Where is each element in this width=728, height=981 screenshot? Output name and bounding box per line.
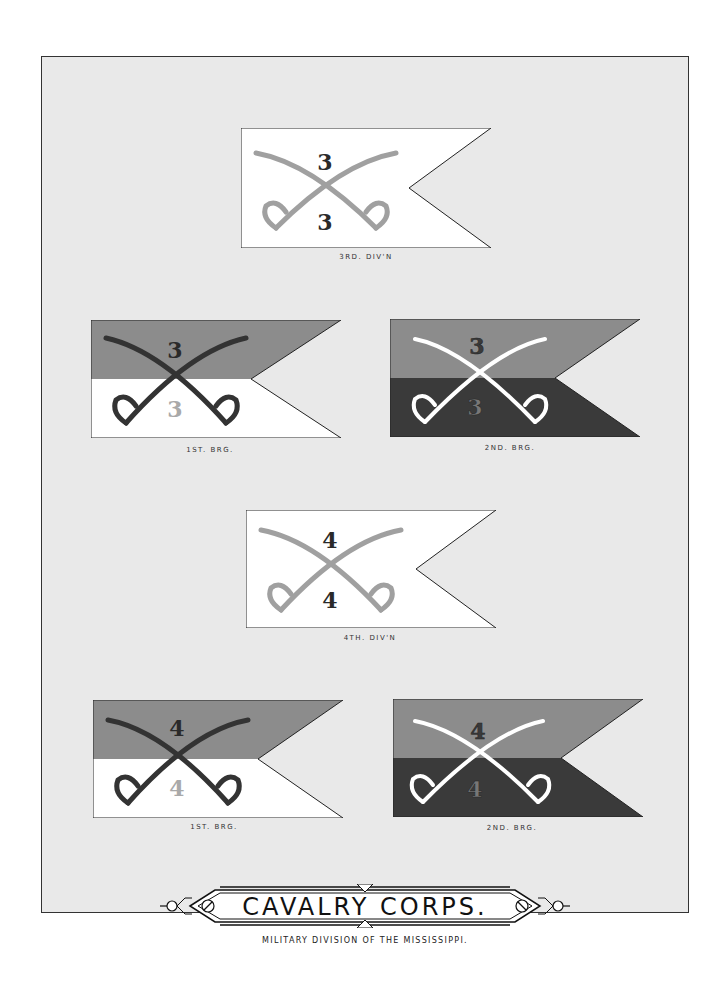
svg-text:3: 3 bbox=[167, 337, 182, 363]
svg-text:3: 3 bbox=[317, 149, 332, 175]
svg-text:3: 3 bbox=[167, 396, 182, 422]
caption-3rd-division: 3RD. DIV'N bbox=[286, 253, 446, 261]
caption-2nd-brigade-4th: 2ND. BRG. bbox=[432, 824, 592, 832]
caption-1st-brigade: 1ST. BRG. bbox=[130, 446, 290, 454]
caption-1st-brigade-4th: 1ST. BRG. bbox=[134, 823, 294, 831]
flag-3rd-div-2nd-brigade: 3 3 bbox=[390, 319, 640, 437]
plate-subtitle: MILITARY DIVISION OF THE MISSISSIPPI. bbox=[200, 936, 530, 945]
flag-4th-div-2nd-brigade: 4 4 bbox=[393, 699, 643, 817]
flag-3rd-division: 3 3 bbox=[241, 128, 491, 248]
svg-text:4: 4 bbox=[467, 776, 482, 802]
svg-text:3: 3 bbox=[317, 209, 332, 235]
svg-text:4: 4 bbox=[322, 587, 337, 613]
svg-text:4: 4 bbox=[169, 775, 184, 801]
flag-4th-division: 4 4 bbox=[246, 510, 496, 628]
caption-4th-division: 4TH. DIV'N bbox=[290, 634, 450, 642]
svg-text:3: 3 bbox=[467, 394, 482, 420]
flag-4th-div-1st-brigade: 4 4 bbox=[93, 700, 343, 818]
svg-text:4: 4 bbox=[470, 718, 485, 744]
plate-title: CAVALRY CORPS. bbox=[160, 893, 570, 921]
svg-text:4: 4 bbox=[322, 527, 337, 553]
caption-2nd-brigade: 2ND. BRG. bbox=[430, 444, 590, 452]
flag-3rd-div-1st-brigade: 3 3 bbox=[91, 320, 341, 438]
svg-text:3: 3 bbox=[469, 333, 484, 359]
svg-text:4: 4 bbox=[169, 715, 184, 741]
